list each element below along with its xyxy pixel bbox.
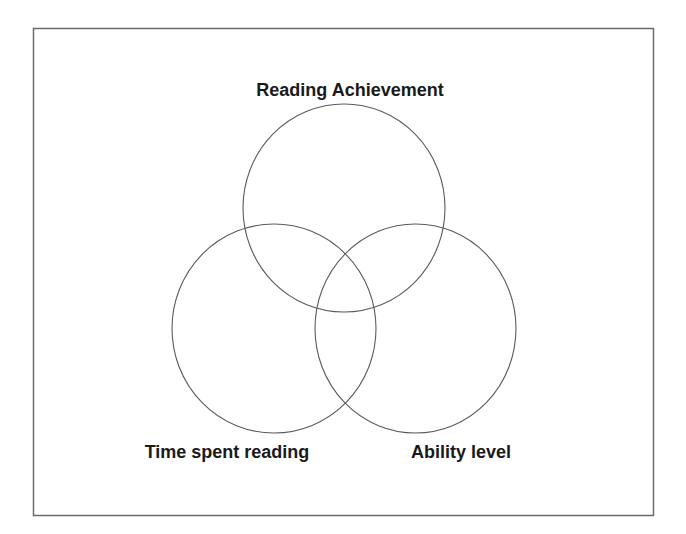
label-ability-level: Ability level <box>411 442 511 462</box>
diagram-frame <box>34 29 654 516</box>
label-time-spent-reading: Time spent reading <box>145 442 310 462</box>
circle-reading-achievement <box>243 104 445 312</box>
label-reading-achievement: Reading Achievement <box>256 80 443 100</box>
circle-time-spent-reading <box>172 224 376 433</box>
venn-diagram: Reading Achievement Time spent reading A… <box>0 0 686 534</box>
circle-ability-level <box>315 224 516 433</box>
